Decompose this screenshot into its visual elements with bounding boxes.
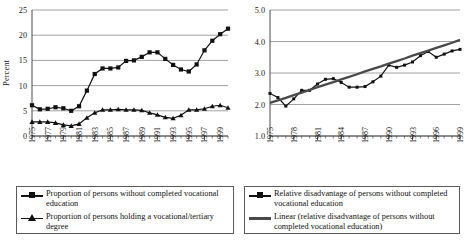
y-axis-tick-label: 1.0 [255,132,265,141]
data-point-marker [395,66,398,69]
data-point-marker [77,104,81,108]
data-point-marker [38,107,42,111]
legend-item: Proportion of persons holding a vocation… [17,210,233,233]
data-point-marker [332,77,335,80]
x-axis-tick-label: 1978 [290,127,299,143]
x-axis-tick-label: 1987 [361,127,370,143]
data-point-marker [356,86,359,89]
x-axis-tick-label: 1995 [185,127,194,143]
legend-row: Proportion of persons without completed … [0,186,468,240]
legend-item-label: Relative disadvantage of persons without… [271,189,456,210]
data-point-marker [226,27,230,31]
y-axis-tick-label: 10 [19,82,27,91]
left-chart-svg: 0510152025Percent19751977197919811983198… [0,0,234,182]
x-axis-tick-label: 1997 [200,127,209,143]
data-point-marker [84,115,89,120]
data-point-marker [187,69,191,73]
right-chart-svg: 1.02.03.04.05.01975197819811984198719901… [234,0,468,182]
legend-left: Proportion of persons without completed … [16,186,234,234]
data-point-marker [411,60,414,63]
legend-item-label: Proportion of persons without completed … [43,189,230,210]
data-point-marker [316,83,319,86]
data-point-marker [443,53,446,56]
data-point-marker [171,63,175,67]
data-point-marker [69,109,73,113]
data-point-marker [202,48,206,52]
x-axis-tick-label: 1984 [337,127,346,143]
data-point-marker [364,85,367,88]
x-axis-tick-label: 1985 [106,127,115,143]
legend-item: Proportion of persons without completed … [17,187,233,210]
data-point-marker [210,39,214,43]
x-axis-tick-label: 1990 [385,127,394,143]
y-axis-tick-label: 5.0 [255,6,265,15]
y-axis-tick-label: 3.0 [255,69,265,78]
x-axis-tick-label: 1996 [432,127,441,143]
y-axis-tick-label: 4.0 [255,38,265,47]
x-axis-tick-label: 1981 [314,127,323,143]
data-point-marker [46,107,50,111]
legend-item: Linear (relative disadvantage of persons… [245,210,459,233]
data-point-marker [163,57,167,61]
y-axis-tick-label: 5 [23,107,27,116]
chart-panel-right: 1.02.03.04.05.01975197819811984198719901… [234,0,468,182]
data-point-marker [179,67,183,71]
data-point-marker [379,75,382,78]
data-point-marker [284,105,287,108]
x-axis-tick-label: 1993 [409,127,418,143]
data-point-marker [53,105,57,109]
x-axis-tick-label: 1975 [28,127,37,143]
data-line [32,29,228,111]
data-point-marker [116,65,120,69]
data-point-marker [85,89,89,93]
data-point-marker [100,66,104,70]
data-line [270,49,460,106]
data-point-marker [124,59,128,63]
data-point-marker [195,62,199,66]
x-axis-tick-label: 1999 [216,127,225,143]
x-axis-tick-label: 1983 [91,127,100,143]
data-point-marker [324,78,327,81]
x-axis-tick-label: 1989 [138,127,147,143]
thick-line-marker-icon [249,213,271,225]
data-point-marker [340,81,343,84]
data-point-marker [435,56,438,59]
data-point-marker [140,55,144,59]
y-axis-tick-label: 2.0 [255,101,265,110]
data-point-marker [61,106,65,110]
square-line-marker-icon [249,190,271,202]
data-point-marker [218,32,222,36]
trend-line [270,40,460,103]
x-axis-tick-label: 1975 [266,127,275,143]
legend-right: Relative disadvantage of persons without… [244,186,460,234]
data-point-marker [451,49,454,52]
data-point-marker [155,50,159,54]
x-axis-tick-label: 1991 [153,127,162,143]
triangle-line-marker-icon [21,213,43,225]
data-point-marker [276,96,279,99]
x-axis-tick-label: 1981 [75,127,84,143]
x-axis-tick-label: 1993 [169,127,178,143]
square-line-marker-icon [21,190,43,202]
legend-item: Relative disadvantage of persons without… [245,187,459,210]
data-point-marker [348,86,351,89]
x-axis-tick-label: 1977 [44,127,53,143]
y-axis-tick-label: 15 [19,56,27,65]
x-axis-tick-label: 1999 [456,127,465,143]
y-axis-tick-label: 0 [23,132,27,141]
data-point-marker [459,48,462,51]
data-point-marker [371,80,374,83]
y-axis-tick-label: 20 [19,31,27,40]
data-point-marker [93,72,97,76]
legend-item-label: Proportion of persons holding a vocation… [43,212,230,233]
y-axis-title: Percent [1,60,11,86]
data-point-marker [108,66,112,70]
legend-item-label: Linear (relative disadvantage of persons… [271,212,456,233]
data-point-marker [132,58,136,62]
chart-panel-left: 0510152025Percent19751977197919811983198… [0,0,234,182]
data-point-marker [30,103,34,107]
data-point-marker [148,50,152,54]
data-point-marker [292,97,295,100]
x-axis-tick-label: 1979 [59,127,68,143]
figure-root: 0510152025Percent19751977197919811983198… [0,0,468,240]
